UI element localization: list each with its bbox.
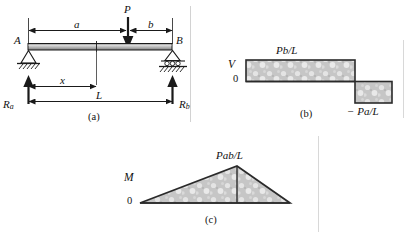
reaction-Rb-subscript: b xyxy=(186,102,190,111)
reaction-label-Rb: Rb xyxy=(179,99,190,111)
moment-peak-label: Pab/L xyxy=(216,150,243,161)
dimension-label-L: L xyxy=(96,90,102,101)
reaction-arrow-Ra xyxy=(23,75,33,104)
moment-triangle xyxy=(140,166,290,203)
dimension-label-b: b xyxy=(148,19,154,30)
shear-zero-label: 0 xyxy=(233,74,238,85)
figure-container: A B P a b x L Ra Rb (a) V 0 Pb/L − Pa/L … xyxy=(0,0,417,246)
shear-negative-label: − Pa/L xyxy=(347,106,379,117)
reaction-Ra-subscript: a xyxy=(10,102,14,111)
point-b-label: B xyxy=(176,35,183,46)
moment-axis-label-M: M xyxy=(124,172,134,184)
dimension-label-a: a xyxy=(74,19,80,30)
reaction-label-Ra: Ra xyxy=(3,99,14,111)
support-pin-left xyxy=(17,51,40,70)
caption-a: (a) xyxy=(88,112,100,123)
beam-body xyxy=(28,44,172,51)
caption-c: (c) xyxy=(205,215,217,226)
shear-axis-label-V: V xyxy=(228,59,235,71)
panel-c-group xyxy=(140,166,290,203)
reaction-arrow-Rb xyxy=(167,75,177,104)
shear-positive-label: Pb/L xyxy=(276,45,297,56)
reaction-Ra-symbol: R xyxy=(3,98,10,110)
caption-b: (b) xyxy=(300,109,312,120)
shear-negative-block xyxy=(355,82,392,104)
moment-zero-label: 0 xyxy=(127,196,132,207)
support-roller-right xyxy=(159,51,187,73)
shear-positive-block xyxy=(246,60,355,82)
load-label-P: P xyxy=(124,4,131,15)
reaction-Rb-symbol: R xyxy=(179,98,186,110)
dimension-label-x: x xyxy=(60,75,65,86)
figure-svg xyxy=(0,0,417,246)
panel-b-group xyxy=(246,60,392,103)
point-a-label: A xyxy=(14,35,21,46)
